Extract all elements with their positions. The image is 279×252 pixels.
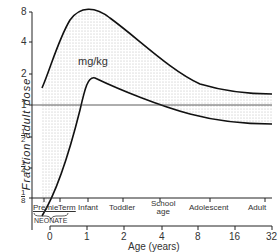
x-tick-0: 0 (47, 231, 53, 242)
category-infant: Infant (78, 203, 98, 212)
x-tick-32: 32 (266, 231, 277, 242)
x-tick-2: 2 (121, 231, 127, 242)
x-tick-1: 1 (84, 231, 90, 242)
category-adult: Adult (248, 203, 266, 212)
category-toddler: Toddler (109, 203, 135, 212)
y-axis-label: Fraction adult dose (20, 78, 32, 191)
category-term: Term (58, 203, 76, 212)
neonate-label: NEONATE (34, 217, 67, 224)
y-tick-4: 4 (21, 36, 27, 47)
category-premie: Premie (33, 203, 58, 212)
dose-range-area (42, 9, 272, 216)
x-axis-label: Age (years) (128, 241, 180, 252)
category-adolescent: Adolescent (189, 203, 229, 212)
y-tick-8: 8 (21, 6, 27, 17)
x-tick-8: 8 (195, 231, 201, 242)
y-tick-eighth: 18 (21, 189, 25, 204)
x-tick-16: 16 (229, 231, 240, 242)
chart-plot (0, 0, 279, 252)
annotation-mg-kg: mg/kg (78, 55, 108, 67)
category-school-age: Schoolage (151, 200, 175, 216)
